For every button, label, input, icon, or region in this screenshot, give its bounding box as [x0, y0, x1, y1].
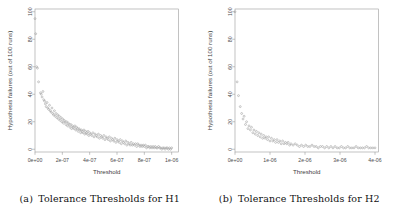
data-point — [91, 135, 93, 137]
data-point — [120, 143, 122, 145]
panel-h2: 0e+001e-062e-063e-064e-06020406080100Thr… — [200, 0, 399, 213]
x-tick-label: 3e-06 — [333, 157, 346, 163]
y-tick-label: 100 — [27, 7, 33, 16]
data-point — [361, 147, 363, 149]
data-point — [365, 146, 367, 148]
data-point — [357, 147, 359, 149]
data-point — [92, 132, 94, 134]
data-point — [93, 136, 95, 138]
y-tick-label: 80 — [226, 36, 232, 42]
data-point — [336, 147, 338, 149]
data-point — [260, 133, 262, 135]
data-point — [99, 137, 101, 139]
x-axis-title: Threshold — [292, 168, 320, 175]
data-point — [254, 133, 256, 135]
data-point — [340, 146, 342, 148]
data-point — [329, 146, 331, 148]
data-point — [338, 147, 340, 149]
data-point — [237, 95, 239, 97]
data-point — [42, 91, 44, 93]
data-point — [332, 147, 334, 149]
y-tick-label: 0 — [226, 148, 232, 151]
data-point — [350, 147, 352, 149]
data-point — [247, 128, 249, 130]
y-tick-label: 40 — [226, 91, 232, 97]
data-point — [274, 141, 276, 143]
data-point — [244, 124, 246, 126]
data-point — [103, 135, 105, 137]
caption-tag-a: (a) — [20, 193, 34, 204]
data-point — [321, 146, 323, 148]
x-tick-label: 8e-07 — [138, 157, 151, 163]
data-point — [108, 136, 110, 138]
caption-text-b: Tolerance Thresholds for H2 — [238, 193, 380, 204]
data-point — [367, 147, 369, 149]
data-point — [239, 106, 241, 108]
data-point — [270, 137, 272, 139]
x-tick-label: 6e-07 — [110, 157, 123, 163]
y-tick-label: 60 — [27, 64, 33, 70]
data-point — [248, 125, 250, 127]
data-point — [308, 146, 310, 148]
data-point — [102, 137, 104, 139]
y-tick-label: 40 — [27, 91, 33, 97]
data-point — [292, 144, 294, 146]
y-tick-label: 80 — [27, 36, 33, 42]
data-point — [118, 141, 120, 143]
data-point — [243, 115, 245, 117]
data-point — [256, 135, 258, 137]
data-point — [252, 129, 254, 131]
data-point — [327, 147, 329, 149]
x-tick-label: 4e-06 — [368, 157, 381, 163]
data-point — [125, 140, 127, 142]
data-point — [49, 104, 51, 106]
data-point — [240, 113, 242, 115]
data-point — [325, 146, 327, 148]
data-point — [251, 132, 253, 134]
data-point — [281, 140, 283, 142]
data-point — [129, 144, 131, 146]
y-tick-label: 20 — [27, 119, 33, 125]
data-point — [319, 146, 321, 148]
panel-h1: 0e+002e-074e-076e-078e-071e-060204060801… — [0, 0, 200, 213]
data-point — [115, 141, 117, 143]
data-point — [242, 118, 244, 120]
data-point — [136, 146, 138, 148]
caption-h1: (a) Tolerance Thresholds for H1 — [0, 193, 200, 204]
data-point — [355, 146, 357, 148]
x-tick-label: 2e-06 — [298, 157, 311, 163]
data-point — [109, 140, 111, 142]
data-point — [298, 146, 300, 148]
data-point — [113, 140, 115, 142]
data-point — [323, 147, 325, 149]
data-point — [273, 139, 275, 141]
y-tick-label: 60 — [226, 64, 232, 70]
data-point — [306, 146, 308, 148]
scatter-plot-h1: 0e+002e-074e-076e-078e-071e-060204060801… — [0, 0, 200, 180]
data-point — [269, 140, 271, 142]
data-point — [119, 139, 121, 141]
x-tick-label: 1e-06 — [165, 157, 178, 163]
y-tick-label: 20 — [226, 119, 232, 125]
data-point — [53, 110, 55, 112]
figure-container: 0e+002e-074e-076e-078e-071e-060204060801… — [0, 0, 399, 213]
data-point — [255, 130, 257, 132]
data-point — [353, 147, 355, 149]
x-tick-label: 0e+00 — [227, 157, 242, 163]
data-point — [249, 129, 251, 131]
data-point — [317, 147, 319, 149]
data-point — [311, 144, 313, 146]
data-point — [300, 144, 302, 146]
data-point — [171, 147, 173, 149]
data-point — [236, 81, 238, 83]
data-point — [126, 144, 128, 146]
data-point — [287, 141, 289, 143]
data-point — [266, 139, 268, 141]
data-point — [346, 146, 348, 148]
x-tick-label: 0e+00 — [28, 157, 43, 163]
data-point — [304, 144, 306, 146]
plot-h1: 0e+002e-074e-076e-078e-071e-060204060801… — [0, 0, 200, 180]
data-point — [51, 107, 53, 109]
data-point — [130, 141, 132, 143]
caption-tag-b: (b) — [219, 193, 233, 204]
